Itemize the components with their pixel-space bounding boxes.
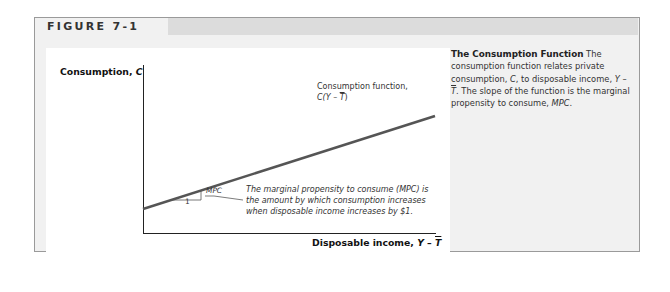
caption-text: . xyxy=(570,98,573,108)
caption-text: , to disposable income, xyxy=(516,74,615,84)
curve-label: Consumption function, C(Y – T) xyxy=(317,82,408,103)
x-axis-label: Disposable income, Y – T xyxy=(312,237,441,248)
annotation-line: The marginal propensity to consume (MPC)… xyxy=(246,185,429,196)
caption-text: – xyxy=(620,74,627,84)
curve-label-line1: Consumption function, xyxy=(317,82,408,93)
slope-rise-label: MPC xyxy=(206,186,222,195)
caption-text: . The slope of the function is the margi… xyxy=(451,86,630,108)
annotation-line: when disposable income increases by $1. xyxy=(246,207,429,218)
caption-title: The Consumption Function xyxy=(451,49,583,59)
curve-label-line2: C(Y – T) xyxy=(317,93,408,104)
slope-run-label: 1 xyxy=(185,197,190,206)
annotation-leader xyxy=(205,196,243,200)
y-axis-label: Consumption, C xyxy=(60,66,143,77)
mpc-annotation: The marginal propensity to consume (MPC)… xyxy=(246,185,429,217)
caption-var-mpc: MPC xyxy=(552,98,570,108)
annotation-line: the amount by which consumption increase… xyxy=(246,196,429,207)
figure-caption: The Consumption Function The consumption… xyxy=(451,48,631,109)
diagram-graphics xyxy=(0,0,670,292)
